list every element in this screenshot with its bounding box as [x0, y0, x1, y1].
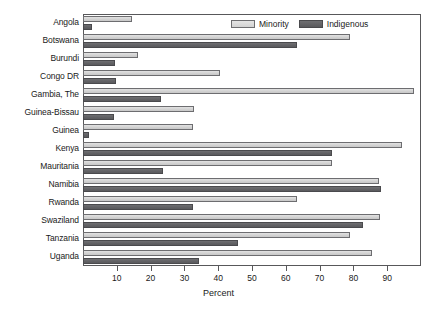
category-axis-labels: AngolaBotswanaBurundiCongo DRGambia, The… [0, 14, 79, 266]
category-label-congo-dr: Congo DR [0, 72, 79, 81]
bar-angola-minority [83, 16, 132, 23]
bar-guinea-bissau-indigenous [83, 114, 114, 121]
category-label-kenya: Kenya [0, 144, 79, 153]
category-label-rwanda: Rwanda [0, 198, 79, 207]
x-tick-label-30: 30 [180, 273, 189, 283]
x-tick-70 [320, 266, 321, 271]
dark-gray-swatch [299, 20, 323, 28]
bars-layer [83, 14, 421, 266]
x-tick-label-90: 90 [382, 273, 391, 283]
bar-uganda-indigenous [83, 258, 199, 265]
category-label-namibia: Namibia [0, 180, 79, 189]
chart-legend: MinorityIndigenous [228, 16, 371, 32]
bar-rwanda-indigenous [83, 204, 193, 211]
bar-chart: AngolaBotswanaBurundiCongo DRGambia, The… [0, 0, 437, 317]
bar-botswana-minority [83, 34, 350, 41]
bar-congo-dr-minority [83, 70, 220, 77]
bar-tanzania-minority [83, 232, 350, 239]
x-tick-label-40: 40 [213, 273, 222, 283]
x-tick-20 [151, 266, 152, 271]
category-label-burundi: Burundi [0, 54, 79, 63]
bar-kenya-minority [83, 142, 402, 149]
bar-burundi-minority [83, 52, 138, 59]
bar-rwanda-minority [83, 196, 297, 203]
bar-guinea-bissau-minority [83, 106, 194, 113]
x-tick-10 [117, 266, 118, 271]
bar-mauritania-minority [83, 160, 332, 167]
x-tick-30 [184, 266, 185, 271]
bar-uganda-minority [83, 250, 372, 257]
bar-congo-dr-indigenous [83, 78, 116, 85]
bar-swaziland-indigenous [83, 222, 363, 229]
bar-namibia-minority [83, 178, 379, 185]
x-axis-title: Percent [0, 288, 437, 298]
bar-guinea-indigenous [83, 132, 89, 139]
x-tick-label-20: 20 [146, 273, 155, 283]
x-tick-label-50: 50 [247, 273, 256, 283]
bar-namibia-indigenous [83, 186, 381, 193]
category-label-guinea: Guinea [0, 126, 79, 135]
legend-label-indigenous: Indigenous [327, 20, 369, 29]
category-label-swaziland: Swaziland [0, 216, 79, 225]
x-tick-label-10: 10 [112, 273, 121, 283]
category-label-tanzania: Tanzania [0, 234, 79, 243]
category-label-guinea-bissau: Guinea-Bissau [0, 108, 79, 117]
light-gray-swatch [231, 20, 255, 28]
x-tick-50 [252, 266, 253, 271]
x-tick-40 [218, 266, 219, 271]
category-label-botswana: Botswana [0, 36, 79, 45]
bar-burundi-indigenous [83, 60, 115, 67]
x-tick-80 [353, 266, 354, 271]
category-label-mauritania: Mauritania [0, 162, 79, 171]
legend-label-minority: Minority [259, 20, 289, 29]
x-tick-label-80: 80 [349, 273, 358, 283]
bar-botswana-indigenous [83, 42, 297, 49]
bar-angola-indigenous [83, 24, 92, 31]
x-tick-label-70: 70 [315, 273, 324, 283]
x-tick-label-60: 60 [281, 273, 290, 283]
bar-guinea-minority [83, 124, 193, 131]
category-label-gambia-the: Gambia, The [0, 90, 79, 99]
bar-tanzania-indigenous [83, 240, 238, 247]
legend-entry-indigenous: Indigenous [299, 20, 369, 29]
legend-entry-minority: Minority [231, 20, 289, 29]
x-tick-60 [286, 266, 287, 271]
bar-gambia-the-indigenous [83, 96, 161, 103]
bar-mauritania-indigenous [83, 168, 163, 175]
bar-kenya-indigenous [83, 150, 332, 157]
bar-swaziland-minority [83, 214, 380, 221]
category-label-angola: Angola [0, 18, 79, 27]
category-label-uganda: Uganda [0, 252, 79, 261]
bar-gambia-the-minority [83, 88, 414, 95]
x-tick-90 [387, 266, 388, 271]
